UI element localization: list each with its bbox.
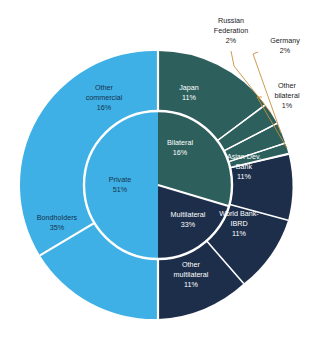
callout-other-bilateral-line1: Other: [278, 81, 297, 90]
pie-chart-container: Other commercial 16% Bondholders 35% Jap…: [0, 0, 317, 338]
callout-other-bilateral-line3: 1%: [282, 101, 293, 110]
callout-germany-line1: Germany: [270, 36, 300, 45]
callout-russian-federation-line1: Russian: [218, 16, 244, 25]
callout-other-bilateral-line2: bilateral: [274, 91, 300, 100]
callout-russian-federation-line2: Federation: [214, 26, 248, 35]
callout-germany-line2: 2%: [280, 46, 291, 55]
callout-russian-federation-line3: 2%: [226, 36, 237, 45]
donut-chart: Other commercial 16% Bondholders 35% Jap…: [0, 0, 317, 338]
inner-ring: [84, 111, 232, 259]
